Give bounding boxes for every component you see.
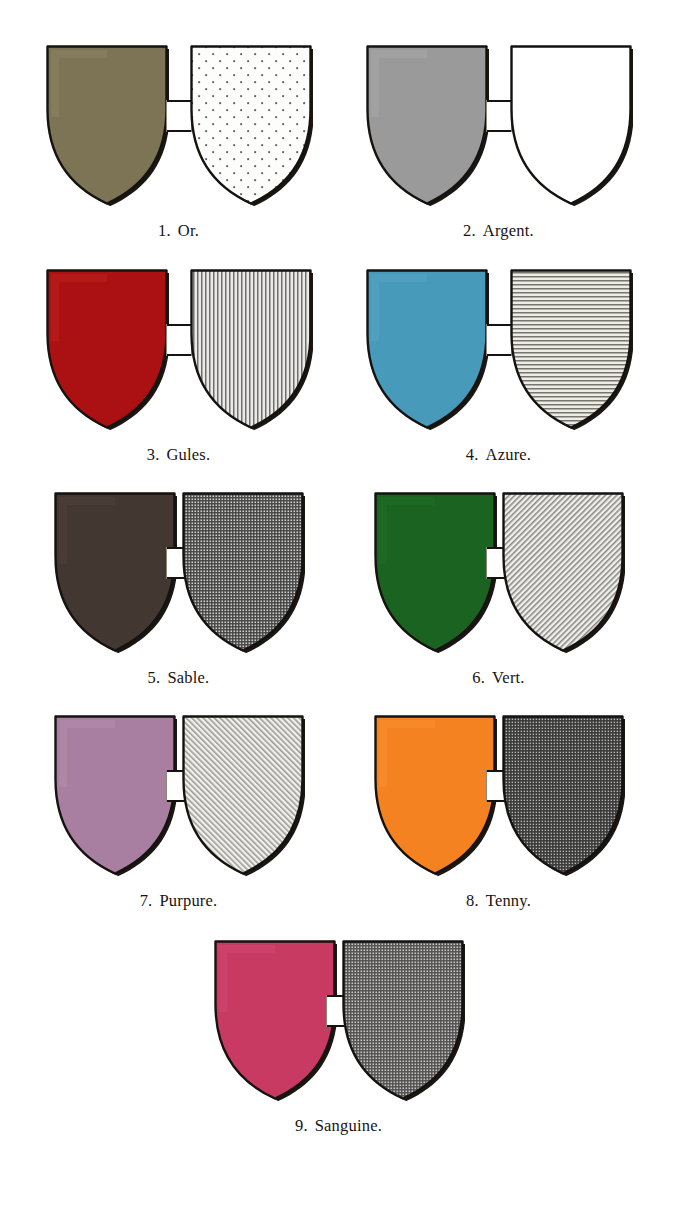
- entry-number: 8.: [466, 891, 479, 910]
- plate-row-5: 9.Sanguine.: [0, 939, 677, 1136]
- shield-pair: [45, 268, 313, 434]
- entry-caption: 8.Tenny.: [466, 891, 531, 911]
- hatching-shield-or: [189, 44, 313, 206]
- tincture-shield-vert: [373, 491, 497, 653]
- plate-row-1: 1.Or. 2.Argent.: [0, 44, 677, 241]
- tincture-entry-purpure: 7.Purpure.: [19, 714, 339, 911]
- entry-caption: 1.Or.: [158, 221, 199, 241]
- shield-pair: [373, 714, 625, 880]
- entry-caption: 6.Vert.: [472, 668, 524, 688]
- tincture-entry-sable: 5.Sable.: [19, 491, 339, 688]
- entry-name: Sanguine.: [315, 1116, 382, 1135]
- entry-name: Tenny.: [486, 891, 531, 910]
- entry-number: 4.: [466, 445, 479, 464]
- hatching-shield-sanguine: [341, 939, 465, 1101]
- tincture-shield-sable: [53, 491, 177, 653]
- tincture-entry-argent: 2.Argent.: [339, 44, 659, 241]
- shield-pair: [45, 44, 313, 210]
- shield-pair: [213, 939, 465, 1105]
- hatching-shield-purpure: [181, 714, 305, 876]
- tincture-shield-sanguine: [213, 939, 337, 1101]
- entry-number: 9.: [295, 1116, 308, 1135]
- entry-number: 2.: [463, 221, 476, 240]
- hatching-shield-tenny: [501, 714, 625, 876]
- tincture-entry-tenny: 8.Tenny.: [339, 714, 659, 911]
- entry-name: Vert.: [492, 668, 525, 687]
- entry-caption: 4.Azure.: [466, 445, 531, 465]
- hatching-shield-azure: [509, 268, 633, 430]
- tincture-entry-gules: 3.Gules.: [19, 268, 339, 465]
- shield-pair: [365, 268, 633, 434]
- entry-number: 3.: [147, 445, 160, 464]
- tincture-shield-tenny: [373, 714, 497, 876]
- tincture-shield-argent: [365, 44, 489, 206]
- entry-number: 1.: [158, 221, 171, 240]
- plate-row-4: 7.Purpure. 8.Tenny.: [0, 714, 677, 911]
- entry-caption: 5.Sable.: [148, 668, 210, 688]
- tincture-shield-purpure: [53, 714, 177, 876]
- tincture-shield-gules: [45, 268, 169, 430]
- entry-name: Gules.: [166, 445, 210, 464]
- entry-name: Argent.: [483, 221, 534, 240]
- entry-number: 6.: [472, 668, 485, 687]
- entry-name: Azure.: [486, 445, 532, 464]
- hatching-shield-argent: [509, 44, 633, 206]
- entry-number: 7.: [140, 891, 153, 910]
- entry-name: Or.: [178, 221, 199, 240]
- entry-name: Purpure.: [159, 891, 217, 910]
- shield-pair: [365, 44, 633, 210]
- tincture-entry-azure: 4.Azure.: [339, 268, 659, 465]
- entry-number: 5.: [148, 668, 161, 687]
- tincture-entry-or: 1.Or.: [19, 44, 339, 241]
- hatching-shield-gules: [189, 268, 313, 430]
- hatching-shield-sable: [181, 491, 305, 653]
- entry-caption: 2.Argent.: [463, 221, 534, 241]
- plate-row-3: 5.Sable. 6.Vert.: [0, 491, 677, 688]
- entry-name: Sable.: [167, 668, 209, 687]
- tincture-shield-azure: [365, 268, 489, 430]
- shield-pair: [53, 714, 305, 880]
- hatching-shield-vert: [501, 491, 625, 653]
- plate-row-2: 3.Gules. 4.Azure.: [0, 268, 677, 465]
- entry-caption: 3.Gules.: [147, 445, 211, 465]
- tincture-entry-vert: 6.Vert.: [339, 491, 659, 688]
- entry-caption: 7.Purpure.: [140, 891, 218, 911]
- entry-caption: 9.Sanguine.: [295, 1116, 382, 1136]
- shield-pair: [373, 491, 625, 657]
- shield-pair: [53, 491, 305, 657]
- tincture-shield-or: [45, 44, 169, 206]
- tincture-entry-sanguine: 9.Sanguine.: [169, 939, 509, 1136]
- tinctures-plate: 1.Or. 2.Argent. 3.Gules.: [0, 0, 677, 1231]
